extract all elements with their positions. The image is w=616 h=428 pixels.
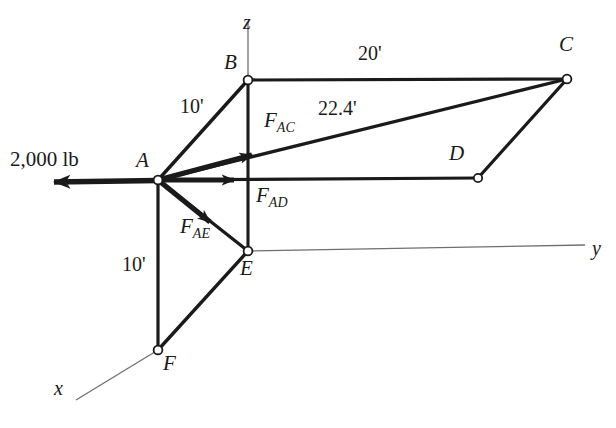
node-A: [154, 176, 163, 185]
force-arrows: [54, 155, 252, 222]
node-B: [244, 76, 253, 85]
node-F: [154, 346, 163, 355]
axis-label-x: x: [54, 378, 63, 398]
dimension-label-bc: 20': [358, 43, 382, 63]
point-label-D: D: [449, 143, 464, 164]
force-ad-symbol: F: [256, 183, 269, 207]
axis-y-line: [248, 245, 585, 251]
point-label-E: E: [240, 258, 253, 279]
figure-canvas: z y x A B C D E F 10' 10' 20' 22.4' 2,00…: [0, 0, 616, 428]
truss-members: [158, 79, 567, 350]
axis-x-line: [76, 350, 158, 400]
node-C: [563, 75, 572, 84]
axis-label-y: y: [592, 238, 601, 258]
point-label-F: F: [163, 353, 176, 374]
force-ac-arrow: [158, 155, 252, 180]
node-E: [244, 247, 253, 256]
dimension-label-ab: 10': [180, 96, 204, 116]
member-ef: [158, 251, 248, 350]
dimension-label-af: 10': [122, 254, 146, 274]
force-ae-symbol: F: [180, 214, 193, 238]
truss-diagram: [0, 0, 616, 428]
point-label-A: A: [136, 150, 149, 171]
force-ae-subscript: AE: [193, 226, 211, 241]
force-ac-symbol: F: [264, 108, 277, 132]
dimension-label-ac: 22.4': [318, 98, 357, 118]
point-label-B: B: [224, 52, 237, 73]
force-ac-subscript: AC: [277, 120, 295, 135]
point-label-C: C: [559, 34, 573, 55]
member-bc: [248, 79, 567, 80]
axis-label-z: z: [243, 12, 251, 32]
force-label-ae: FAE: [180, 216, 210, 241]
member-cd: [478, 79, 567, 178]
force-label-ad: FAD: [256, 185, 288, 210]
applied-load-arrow: [54, 181, 158, 183]
applied-load-label: 2,000 lb: [10, 149, 79, 170]
node-D: [474, 174, 482, 182]
force-label-ac: FAC: [264, 110, 295, 135]
force-ad-subscript: AD: [269, 195, 288, 210]
